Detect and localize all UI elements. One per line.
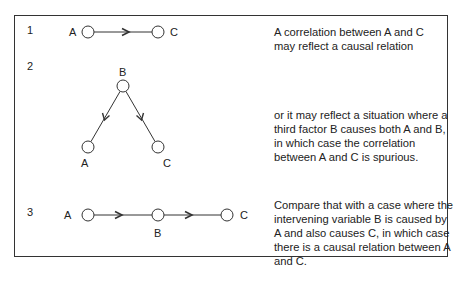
label-c-panel3: C	[240, 209, 248, 221]
node-b-panel2	[117, 80, 129, 92]
node-b-panel3	[152, 209, 164, 221]
panel-number-1: 1	[27, 24, 33, 36]
panel-description-2: or it may reflect a situation where a th…	[274, 108, 456, 164]
panel-number-2: 2	[27, 60, 33, 72]
node-c-panel2	[152, 141, 164, 153]
edge-b-a-panel2	[91, 92, 120, 142]
node-c-panel1	[152, 26, 164, 38]
edge-b-c-panel2	[126, 92, 155, 142]
node-a-panel1	[82, 26, 94, 38]
panel-description-3: Compare that with a case where the inter…	[274, 198, 454, 268]
panel-description-1: A correlation between A and C may reflec…	[274, 25, 434, 53]
node-c-panel3	[221, 209, 233, 221]
label-a-panel1: A	[69, 26, 77, 38]
panel-number-3: 3	[27, 206, 33, 218]
label-a-panel2: A	[81, 157, 89, 169]
node-a-panel2	[82, 141, 94, 153]
label-c-panel2: C	[163, 157, 171, 169]
label-c-panel1: C	[170, 26, 178, 38]
label-b-panel3: B	[154, 227, 161, 239]
label-a-panel3: A	[64, 209, 72, 221]
label-b-panel2: B	[119, 66, 126, 78]
node-a-panel3	[82, 209, 94, 221]
